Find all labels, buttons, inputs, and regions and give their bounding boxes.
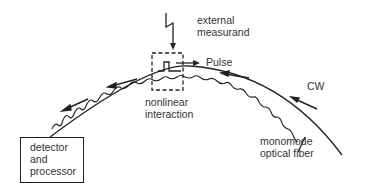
pulse-arrow-icon [193,60,200,66]
nonlinear-interaction-label: nonlinear interaction [145,96,193,120]
fiber-line2: optical fiber [260,147,314,159]
cw-label: CW [307,80,325,92]
lightning-arrow-icon [166,13,173,44]
detector-line3: processor [30,165,83,177]
pulse-label: Pulse [206,56,232,68]
external-measurand-line1: external [197,14,234,26]
nonlinear-line2: interaction [145,108,193,120]
external-measurand-label: external measurand [197,14,250,38]
nonlinear-line1: nonlinear [145,96,188,108]
detector-line2: and [30,153,83,165]
fiber-line1: monomode [260,135,313,147]
detector-line1: detector [30,141,83,153]
fiber-label: monomode optical fiber [260,135,314,159]
detector-processor-box: detector and processor [20,137,84,183]
external-measurand-line2: measurand [197,26,250,38]
